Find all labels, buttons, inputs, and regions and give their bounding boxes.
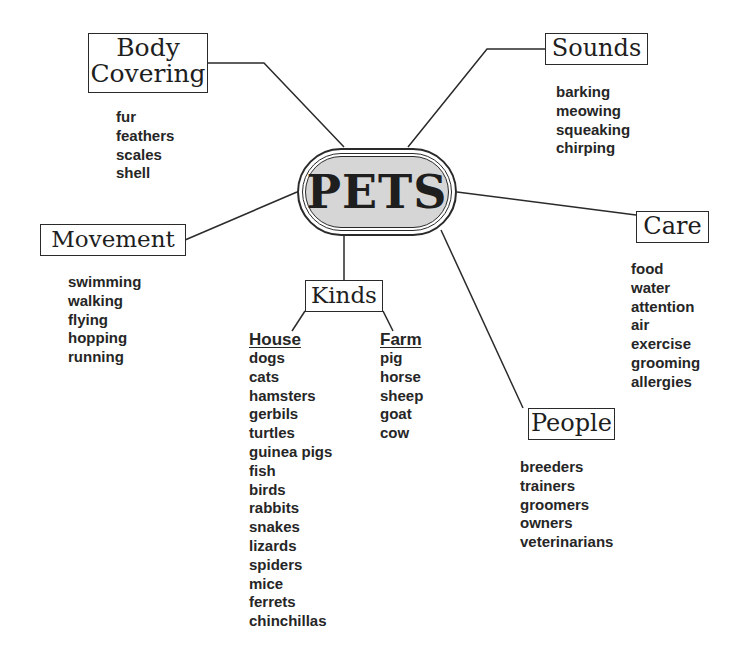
body-covering-list: fur feathers scales shell [116,108,174,183]
list-item: owners [520,514,613,533]
list-item: fur [116,108,174,127]
list-item: trainers [520,477,613,496]
list-item: cats [249,368,332,387]
center-node-pets: PETS [297,148,457,236]
sounds-list: barking meowing squeaking chirping [556,83,630,158]
list-item: rabbits [249,499,332,518]
list-item: allergies [631,373,700,392]
list-item: swimming [68,273,141,292]
list-item: grooming [631,354,700,373]
list-item: running [68,348,141,367]
list-item: spiders [249,556,332,575]
farm-heading: Farm [380,330,423,349]
connector-sounds [408,49,545,147]
list-item: exercise [631,335,700,354]
care-list: food water attention air exercise groomi… [631,260,700,392]
list-item: snakes [249,518,332,537]
list-item: gerbils [249,405,332,424]
node-title: People [531,409,612,437]
connector-farm [383,311,393,331]
list-item: shell [116,164,174,183]
list-item: pig [380,349,423,368]
list-item: chinchillas [249,612,332,631]
list-item: air [631,316,700,335]
list-item: dogs [249,349,332,368]
node-care: Care [636,211,709,243]
node-title-line2: Covering [89,61,207,87]
list-item: walking [68,292,141,311]
list-item: flying [68,311,141,330]
list-item: sheep [380,387,423,406]
list-item: ferrets [249,593,332,612]
list-item: feathers [116,127,174,146]
house-heading: House [249,330,332,349]
center-label: PETS [305,156,449,228]
kinds-house-list: House dogs cats hamsters gerbils turtles… [249,330,332,631]
node-people: People [528,408,615,440]
connector-house [292,311,305,331]
list-item: birds [249,481,332,500]
connector-movement [185,192,297,240]
list-item: food [631,260,700,279]
list-item: fish [249,462,332,481]
node-title: Kinds [311,282,377,308]
list-item: turtles [249,424,332,443]
node-kinds: Kinds [305,280,383,312]
list-item: hamsters [249,387,332,406]
node-movement: Movement [40,224,186,256]
list-item: guinea pigs [249,443,332,462]
list-item: scales [116,146,174,165]
node-title: Movement [51,226,174,252]
list-item: chirping [556,139,630,158]
node-title: Sounds [552,34,641,62]
node-sounds: Sounds [545,33,648,65]
node-body-covering: Body Covering [88,33,208,93]
list-item: attention [631,298,700,317]
people-list: breeders trainers groomers owners veteri… [520,458,613,552]
list-item: horse [380,368,423,387]
list-item: barking [556,83,630,102]
list-item: lizards [249,537,332,556]
movement-list: swimming walking flying hopping running [68,273,141,367]
kinds-farm-list: Farm pig horse sheep goat cow [380,330,423,443]
node-title-line1: Body [89,35,207,61]
list-item: breeders [520,458,613,477]
list-item: squeaking [556,121,630,140]
connector-people [441,230,523,408]
list-item: groomers [520,496,613,515]
node-title: Care [643,212,701,240]
list-item: cow [380,424,423,443]
center-ring: PETS [302,153,452,231]
list-item: goat [380,405,423,424]
list-item: meowing [556,102,630,121]
list-item: veterinarians [520,533,613,552]
list-item: mice [249,575,332,594]
list-item: water [631,279,700,298]
connector-body-covering [207,63,344,147]
connector-care [457,192,636,215]
list-item: hopping [68,329,141,348]
pets-concept-map: PETS Body Covering fur feathers scales s… [0,0,745,669]
